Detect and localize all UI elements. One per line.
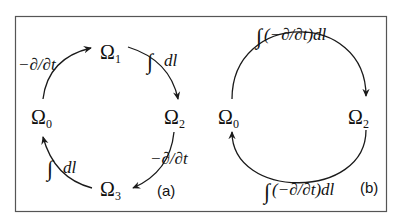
panel-b: Ω0 Ω2 ∫ (−∂/∂t)dl ∫ (−∂/∂t)dl (b) [218, 24, 378, 205]
node-omega3: Ω3 [100, 178, 121, 203]
edge-omega2-to-omega0-b [232, 130, 366, 183]
integral-sign-bottom-left: ∫ [45, 156, 55, 182]
edge-label-top-b: (−∂/∂t)dl [264, 25, 327, 44]
node-omega1: Ω1 [100, 41, 121, 66]
node-omega0: Ω0 [31, 106, 52, 131]
integral-sign-bottom-b: ∫ [262, 179, 272, 205]
node-omega2: Ω2 [164, 106, 185, 131]
edge-label-dl-bottom-left: dl [63, 158, 77, 177]
panel-a: Ω1 Ω2 Ω3 Ω0 −∂/∂t ∫ dl −∂/∂t ∫ dl (a) [18, 41, 189, 203]
edge-label-minus-dt-bottom-right: −∂/∂t [150, 149, 189, 168]
edge-label-bottom-b: (−∂/∂t)dl [272, 180, 335, 199]
panel-label-b: (b) [360, 179, 378, 196]
edge-label-minus-dt-top: −∂/∂t [18, 55, 57, 74]
node-omega2-b: Ω2 [348, 106, 369, 131]
panel-label-a: (a) [157, 182, 175, 199]
diagram-canvas: Ω1 Ω2 Ω3 Ω0 −∂/∂t ∫ dl −∂/∂t ∫ dl (a) Ω0… [0, 0, 400, 220]
edge-label-dl-top-right: dl [164, 51, 178, 70]
integral-sign-top-right: ∫ [145, 49, 155, 75]
integral-sign-top-b: ∫ [254, 24, 264, 50]
node-omega0-b: Ω0 [218, 106, 239, 131]
